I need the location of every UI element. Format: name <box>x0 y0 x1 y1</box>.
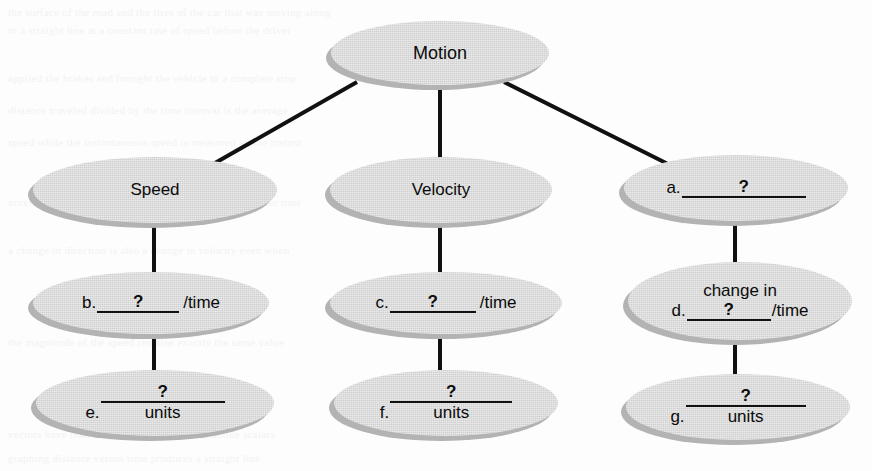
edge-motion-blank-a <box>504 82 672 166</box>
blank-under-word: units <box>728 408 764 427</box>
answer-blank-c[interactable]: ? <box>390 293 476 313</box>
blank-row: d. ? /time <box>671 301 808 321</box>
node-label: c. ? /time <box>330 272 562 334</box>
blank-row: b. ? /time <box>82 293 220 313</box>
blank-suffix: /time <box>183 293 220 313</box>
node-label: g. ? units <box>626 374 850 440</box>
blank-rule <box>97 311 179 313</box>
node-label: Motion <box>331 21 549 85</box>
blank-under-word: units <box>145 404 181 423</box>
answer-blank-g[interactable]: ? units <box>686 387 806 427</box>
question-mark: ? <box>427 293 437 310</box>
blank-rule <box>687 319 771 321</box>
blank-prefix: f. <box>380 403 389 423</box>
answer-blank-d[interactable]: ? <box>687 301 771 321</box>
node-text: Velocity <box>412 180 471 200</box>
node-blank-e[interactable]: e. ? units <box>36 370 274 436</box>
ghost-line: a change in direction is also a change i… <box>8 244 864 256</box>
blank-prefix: b. <box>82 293 96 313</box>
answer-blank-a[interactable]: ? <box>682 178 806 198</box>
question-mark: ? <box>133 293 143 310</box>
node-label: a. ? <box>624 155 848 221</box>
blank-prefix: d. <box>671 301 685 321</box>
blank-rule <box>390 311 476 313</box>
node-velocity[interactable]: Velocity <box>330 157 552 223</box>
node-text: Motion <box>413 43 467 64</box>
node-motion[interactable]: Motion <box>331 21 549 85</box>
blank-row: g. ? units <box>670 387 805 427</box>
blank-rule <box>682 196 806 198</box>
answer-blank-f[interactable]: ? units <box>390 383 512 423</box>
diagram-canvas: the surface of the road and the tires of… <box>0 0 872 471</box>
ghost-line: graphing distance versus time produces a… <box>8 452 864 464</box>
node-blank-b[interactable]: b. ? /time <box>33 272 269 334</box>
question-mark: ? <box>740 387 750 404</box>
blank-prefix: e. <box>85 403 99 423</box>
node-label: e. ? units <box>36 370 274 436</box>
question-mark: ? <box>446 383 456 400</box>
node-blank-f[interactable]: f. ? units <box>334 370 558 436</box>
blank-prefix: c. <box>375 293 388 313</box>
node-blank-g[interactable]: g. ? units <box>626 374 850 440</box>
blank-row: a. ? <box>666 178 805 198</box>
blank-prefix: g. <box>670 407 684 427</box>
node-label: Speed <box>33 157 277 223</box>
edge-motion-speed <box>208 82 357 167</box>
ghost-line: distance traveled divided by the time in… <box>8 104 864 116</box>
ghost-line: speed while the instantaneous speed is m… <box>8 136 864 148</box>
ghost-line: the surface of the road and the tires of… <box>8 6 864 18</box>
node-label: f. ? units <box>334 370 558 436</box>
node-label: Velocity <box>330 157 552 223</box>
node-blank-a[interactable]: a. ? <box>624 155 848 221</box>
node-label: change in d. ? /time <box>628 262 852 340</box>
node-blank-d[interactable]: change in d. ? /time <box>628 262 852 340</box>
blank-row: f. ? units <box>380 383 512 423</box>
blank-suffix: /time <box>480 293 517 313</box>
blank-suffix: /time <box>772 301 809 321</box>
node-text: Speed <box>130 180 179 200</box>
blank-under-word: units <box>433 404 469 423</box>
question-mark: ? <box>723 301 733 318</box>
question-mark: ? <box>157 383 167 400</box>
answer-blank-b[interactable]: ? <box>97 293 179 313</box>
blank-row: c. ? /time <box>375 293 516 313</box>
blank-prefix: a. <box>666 178 680 198</box>
answer-blank-e[interactable]: ? units <box>101 383 225 423</box>
node-speed[interactable]: Speed <box>33 157 277 223</box>
node-blank-c[interactable]: c. ? /time <box>330 272 562 334</box>
blank-row: e. ? units <box>85 383 224 423</box>
blank-top-line: change in <box>703 281 777 301</box>
node-label: b. ? /time <box>33 272 269 334</box>
question-mark: ? <box>738 178 748 195</box>
